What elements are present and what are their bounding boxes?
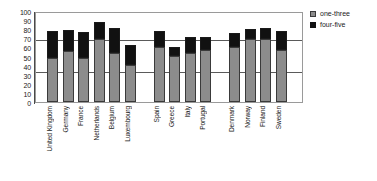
- bar-segment-one-three: [260, 39, 271, 102]
- bar-segment-four-five: [200, 37, 211, 50]
- y-axis-tick-label: 80: [24, 27, 31, 34]
- x-axis-tick-label: Belgium: [108, 106, 119, 129]
- x-axis-tick-label: Greece: [168, 106, 179, 127]
- chart-legend: one-threefour-five: [310, 10, 376, 32]
- y-axis-tick-label: 100: [20, 9, 31, 16]
- y-axis-tick-label: 30: [24, 72, 31, 79]
- bar-segment-one-three: [78, 58, 89, 102]
- y-axis: 0102030405060708090100: [0, 12, 35, 103]
- y-axis-tick-label: 0: [27, 100, 31, 107]
- chart-container: 0102030405060708090100 United KingdomGer…: [0, 0, 377, 181]
- x-axis-tick-label: Finland: [259, 106, 270, 127]
- bar-segment-one-three: [185, 53, 196, 102]
- x-axis-tick-label: Italy: [184, 106, 195, 118]
- bar-segment-four-five: [185, 37, 196, 53]
- bar-segment-four-five: [125, 45, 136, 65]
- legend-item: four-five: [310, 21, 376, 29]
- bar-segment-four-five: [229, 33, 240, 47]
- x-axis-tick-label: Luxembourg: [124, 106, 135, 142]
- bar-segment-four-five: [94, 22, 105, 39]
- x-axis-tick-label: Sweden: [275, 106, 286, 129]
- bar-segment-four-five: [169, 47, 180, 56]
- x-axis-labels: United KingdomGermanyFranceNetherlandsBe…: [35, 104, 303, 181]
- x-axis-tick-label: Denmark: [228, 106, 239, 132]
- bar-segment-one-three: [47, 58, 58, 102]
- legend-item: one-three: [310, 10, 376, 18]
- x-axis-tick-label: Spain: [153, 106, 164, 122]
- bar-segment-four-five: [245, 29, 256, 39]
- x-axis-tick-label: Portugal: [199, 106, 210, 130]
- bar-segment-one-three: [63, 51, 74, 102]
- bar-segment-four-five: [276, 31, 287, 50]
- plot-area: [35, 12, 303, 103]
- bar-segment-four-five: [154, 31, 165, 47]
- bar-segment-one-three: [109, 53, 120, 102]
- y-axis-tick-label: 70: [24, 36, 31, 43]
- legend-item-label: one-three: [320, 10, 350, 18]
- black-square-icon: [310, 22, 316, 28]
- y-axis-tick-label: 60: [24, 45, 31, 52]
- bar-segment-one-three: [94, 39, 105, 102]
- x-axis-tick-label: France: [77, 106, 88, 126]
- bar-segment-one-three: [154, 47, 165, 102]
- bar-segment-four-five: [78, 32, 89, 58]
- bar-segment-one-three: [276, 50, 287, 102]
- y-axis-tick-label: 90: [24, 18, 31, 25]
- bar-segment-one-three: [245, 39, 256, 102]
- bar-segment-four-five: [47, 31, 58, 58]
- bar-segment-four-five: [260, 28, 271, 39]
- bar-segment-four-five: [63, 30, 74, 51]
- y-axis-tick-label: 20: [24, 81, 31, 88]
- x-axis-tick-label: Netherlands: [93, 106, 104, 140]
- legend-item-label: four-five: [320, 21, 345, 29]
- bar-segment-four-five: [109, 28, 120, 53]
- y-axis-tick-label: 50: [24, 54, 31, 61]
- x-axis-tick-label: Germany: [62, 106, 73, 132]
- gray-square-icon: [310, 11, 316, 17]
- bars-layer: [36, 13, 302, 102]
- x-axis-tick-label: United Kingdom: [46, 106, 57, 152]
- y-axis-tick-label: 40: [24, 63, 31, 70]
- bar-segment-one-three: [229, 47, 240, 103]
- x-axis-tick-label: Norway: [244, 106, 255, 128]
- bar-segment-one-three: [125, 65, 136, 102]
- bar-segment-one-three: [169, 56, 180, 102]
- y-axis-tick-label: 10: [24, 90, 31, 97]
- bar-segment-one-three: [200, 50, 211, 102]
